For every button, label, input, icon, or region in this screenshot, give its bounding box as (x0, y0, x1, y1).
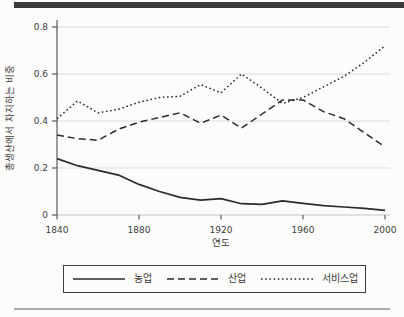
axes-and-ticks: 00.20.40.60.818401880192019602000 (34, 20, 397, 235)
legend-item-services: 서비스업 (259, 274, 358, 284)
y-tick-label: 0.6 (34, 69, 49, 79)
x-tick-label: 1840 (46, 225, 69, 235)
y-tick-label: 0.2 (34, 163, 48, 173)
y-tick-label: 0.4 (34, 116, 49, 126)
top-divider (14, 2, 404, 8)
bottom-divider (14, 308, 390, 310)
series-line-dotted (57, 46, 385, 119)
figure: 00.20.40.60.818401880192019602000 총생산에서 … (0, 0, 404, 317)
x-tick-label: 2000 (374, 225, 397, 235)
dashed-line-sample (165, 276, 221, 282)
legend-label-industry: 산업 (228, 274, 246, 284)
gridlines (57, 27, 390, 215)
x-tick-label: 1880 (128, 225, 151, 235)
x-tick-label: 1920 (210, 225, 233, 235)
legend-label-services: 서비스업 (322, 274, 358, 284)
dotted-line-sample (259, 276, 315, 282)
x-tick-label: 1960 (292, 225, 315, 235)
legend: 농업 산업 서비스업 (63, 265, 366, 293)
legend-item-agriculture: 농업 (71, 274, 152, 284)
y-axis-title: 총생산에서 차지하는 비중 (4, 65, 15, 170)
legend-label-agriculture: 농업 (134, 274, 152, 284)
x-axis-title: 연도 (212, 237, 230, 248)
line-chart: 00.20.40.60.818401880192019602000 총생산에서 … (0, 0, 404, 258)
solid-line-sample (71, 276, 127, 282)
series-line-dashed (57, 100, 385, 147)
data-series (57, 46, 385, 211)
y-tick-label: 0.8 (34, 22, 49, 32)
series-line-solid (57, 159, 385, 211)
legend-item-industry: 산업 (165, 274, 246, 284)
y-tick-label: 0 (42, 210, 48, 220)
